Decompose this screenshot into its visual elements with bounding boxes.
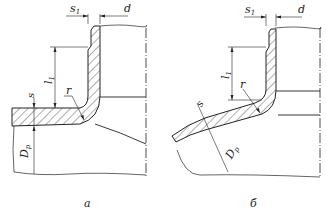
drawing: s1 d l1 r s Dp а s1	[0, 0, 327, 215]
break-line-bottom	[177, 150, 320, 177]
panel-b: s1 d l1 r s Dp б	[172, 3, 321, 210]
label-l1: l1	[219, 71, 233, 79]
label-r: r	[240, 78, 246, 91]
label-s1: s1	[245, 3, 255, 17]
label-r: r	[66, 84, 72, 97]
caption-a: а	[84, 197, 91, 210]
break-line-left	[13, 126, 14, 172]
label-s: s	[194, 99, 206, 109]
flange-section	[12, 26, 100, 126]
label-d: d	[298, 3, 305, 16]
label-l1: l1	[42, 76, 56, 84]
label-dp: Dp	[18, 144, 32, 159]
break-line-top	[100, 25, 147, 27]
panel-a: s1 d l1 r s Dp а	[12, 2, 147, 210]
break-line-top	[275, 27, 321, 29]
caption-b: б	[250, 197, 257, 210]
flange-section	[172, 29, 276, 142]
label-s: s	[25, 93, 36, 98]
label-s1: s1	[70, 2, 80, 16]
label-dp: Dp	[222, 142, 242, 162]
curve-line	[95, 124, 146, 144]
label-d: d	[124, 2, 131, 15]
